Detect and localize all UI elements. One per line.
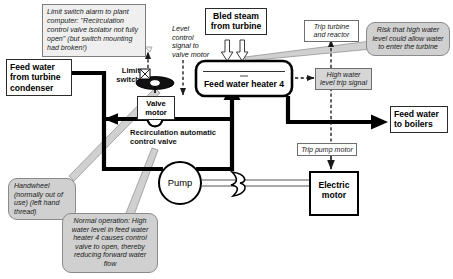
normal-operation-callout: Normal operation: High water level in fe… (62, 213, 158, 273)
limit-switch-label: Limit switch (112, 66, 140, 84)
feed-water-from-condenser-box: Feed water from turbine condenser (6, 59, 72, 96)
limit-switch-note-tail (145, 47, 152, 52)
diagram-canvas: Limit switch alarm to plant computer: "R… (0, 0, 453, 279)
feed-water-to-boilers-box: Feed water to boilers (390, 106, 448, 133)
high-water-level-trip-signal-box: High water level trip signal (315, 68, 372, 90)
pipe-condenser-inlet (72, 73, 104, 119)
pump-label: Pump (160, 177, 200, 188)
risk-callout: Risk that high water level could allow w… (366, 22, 450, 56)
level-control-signal-label: Level control signal to valve motor (172, 25, 210, 59)
feed-water-heater-label: Feed water heater 4 (198, 79, 290, 89)
normal-operation-callout-tail (126, 148, 158, 215)
valve-motor-box: Valve motor (137, 96, 175, 120)
risk-callout-tail (245, 41, 372, 61)
shaft-coupling-icon (231, 172, 245, 196)
boiler-feed-arrow (371, 115, 388, 130)
bled-steam-box: Bled steam from turbine (205, 8, 267, 35)
bled-steam-arrow-left (221, 40, 233, 61)
recirculation-valve-label: Recirculation automatic control valve (130, 128, 230, 146)
trip-turbine-and-reactor-box: Trip turbine and reactor (304, 20, 359, 42)
electric-motor-label: Electric motor (312, 180, 356, 201)
handwheel-hub (150, 80, 161, 87)
limit-switch-alarm-note: Limit switch alarm to plant computer: "R… (42, 4, 146, 57)
trip-pump-motor-box: Trip pump motor (297, 143, 357, 156)
